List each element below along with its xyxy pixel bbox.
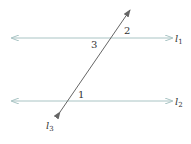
angle-3-label: 3 bbox=[91, 39, 97, 50]
diagram-canvas: l1 l2 l3 2 3 1 bbox=[0, 0, 191, 144]
label-l3: l3 bbox=[46, 120, 54, 133]
line-l3-transversal bbox=[60, 10, 130, 112]
label-l1: l1 bbox=[175, 33, 183, 46]
label-l2: l2 bbox=[175, 96, 183, 109]
angle-2-label: 2 bbox=[124, 25, 130, 36]
angle-1-label: 1 bbox=[78, 89, 84, 100]
